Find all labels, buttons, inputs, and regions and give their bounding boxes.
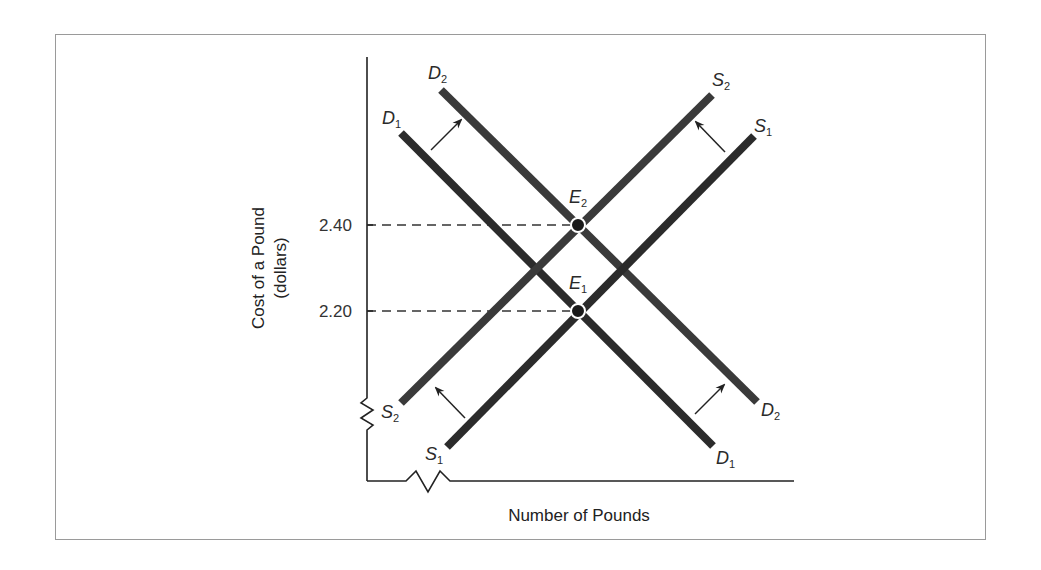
arrow-supply-shift-top bbox=[696, 122, 725, 152]
y-axis-units: (dollars) bbox=[271, 237, 290, 298]
point-e1 bbox=[571, 304, 585, 318]
y-tick-2-20: 2.20 bbox=[319, 302, 352, 321]
label-s1-bottom: S1 bbox=[425, 444, 443, 466]
curve-labels: D1 D2 S2 S1 S2 S1 D2 D1 E2 E1 bbox=[381, 63, 780, 470]
arrow-supply-shift-bottom bbox=[436, 388, 465, 418]
label-d2-bottom: D2 bbox=[761, 400, 780, 422]
label-e2: E2 bbox=[569, 187, 587, 209]
label-s2-top: S2 bbox=[712, 70, 730, 92]
label-d1-bottom: D1 bbox=[716, 448, 735, 470]
supply-demand-chart: D1 D2 S2 S1 S2 S1 D2 D1 E2 E1 2.40 2.20 … bbox=[0, 0, 1041, 570]
price-guides bbox=[367, 225, 578, 311]
x-axis bbox=[367, 471, 794, 492]
arrow-demand-shift-bottom bbox=[695, 385, 724, 414]
label-s2-bottom: S2 bbox=[381, 402, 399, 424]
y-axis-title: Cost of a Pound bbox=[249, 207, 268, 329]
y-ticks bbox=[367, 225, 373, 311]
label-s1-top: S1 bbox=[754, 116, 772, 138]
label-d1-top: D1 bbox=[382, 108, 401, 130]
label-d2-top: D2 bbox=[428, 63, 447, 85]
point-e2 bbox=[571, 218, 585, 232]
x-axis-title: Number of Pounds bbox=[508, 506, 650, 525]
y-axis bbox=[361, 57, 373, 481]
arrow-demand-shift-top bbox=[431, 120, 461, 150]
curve-s2 bbox=[401, 95, 712, 403]
curve-d1 bbox=[401, 133, 713, 446]
shift-arrows bbox=[431, 120, 725, 418]
curves bbox=[401, 90, 757, 447]
label-e1: E1 bbox=[569, 273, 587, 295]
y-tick-2-40: 2.40 bbox=[319, 216, 352, 235]
